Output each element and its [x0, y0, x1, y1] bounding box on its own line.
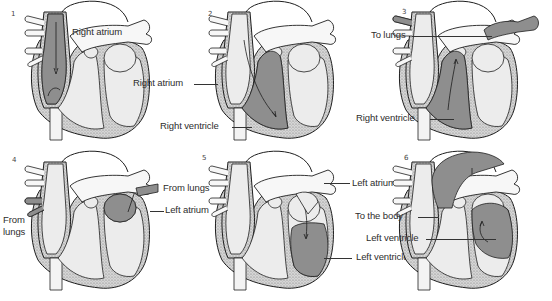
leader-line [150, 211, 164, 212]
leader-line [324, 258, 352, 259]
leader-line [194, 84, 218, 85]
heart-diagram-4 [0, 150, 184, 300]
label-to-lungs: To lungs [371, 29, 406, 40]
leader-line [324, 183, 350, 184]
step-number: 3 [402, 8, 406, 16]
heart-diagram-3 [368, 0, 552, 150]
label-left-ventricle: Left ventricle [366, 232, 418, 243]
label-right-ventricle: Right ventricle [160, 120, 219, 131]
label-to-the-body: To the body [355, 210, 403, 221]
heart-diagram-1 [0, 0, 184, 150]
leader-line [418, 217, 438, 218]
label-from-lungs-left-line2: lungs [3, 226, 25, 237]
step-number: 5 [202, 154, 206, 162]
label-right-atrium: Right atrium [133, 77, 183, 88]
leader-line [430, 119, 454, 120]
leader-line [412, 36, 492, 37]
leader-line [426, 239, 496, 240]
panel-2-right-ventricle-fill: 2 Right atrium Right ventricle [184, 0, 368, 150]
heart-diagram-5 [184, 150, 368, 300]
label-right-atrium: Right atrium [72, 26, 122, 37]
step-number: 2 [208, 10, 212, 18]
leader-line [232, 127, 252, 128]
step-number: 4 [12, 156, 16, 164]
panel-6-aorta-fill: 6 To the body Left ventricle [368, 150, 552, 300]
label-from-lungs-left-line1: From [3, 214, 25, 225]
label-right-ventricle: Right ventricle [356, 112, 415, 123]
panel-1-right-atrium-fill: 1 Right atrium [0, 0, 184, 150]
panel-3-pulmonary-fill: 3 To lungs Right ventricle [368, 0, 552, 150]
step-number: 1 [11, 10, 15, 18]
panel-4-left-atrium-fill: 4 From lungs Left atrium From lungs [0, 150, 184, 300]
panel-5-left-ventricle-fill: 5 Left atrium Left ventricle [184, 150, 368, 300]
step-number: 6 [404, 154, 408, 162]
heart-diagram-6 [368, 150, 552, 300]
